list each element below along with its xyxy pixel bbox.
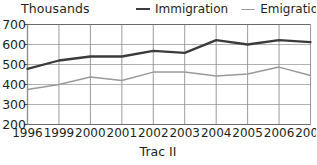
plot-area xyxy=(0,0,316,165)
grid-lines xyxy=(28,25,311,125)
y-tick-label: 500 xyxy=(0,59,26,72)
x-tick-label: 2003 xyxy=(169,127,201,139)
plot-svg xyxy=(0,0,316,165)
immigration-emigration-line-chart: Thousands Immigration Emigration 7006005… xyxy=(0,0,316,165)
series-line-emigration xyxy=(28,67,311,89)
x-tick-label: 2000 xyxy=(74,127,106,139)
x-tick-label: 1996 xyxy=(12,127,44,139)
x-tick-label: 2005 xyxy=(232,127,264,139)
chart-caption: Trac II xyxy=(0,144,316,159)
y-tick-label: 700 xyxy=(0,19,26,32)
x-tick-label: 2006 xyxy=(263,127,295,139)
y-tick-label: 300 xyxy=(0,99,26,112)
y-tick-label: 600 xyxy=(0,39,26,52)
x-tick-label: 2004 xyxy=(200,127,232,139)
x-tick-label: 2002 xyxy=(137,127,169,139)
axis-frame xyxy=(24,25,311,125)
x-tick-label: 2007 xyxy=(295,127,317,139)
x-tick-label: 2001 xyxy=(106,127,138,139)
y-tick-label: 400 xyxy=(0,79,26,92)
x-tick-label: 1999 xyxy=(43,127,75,139)
